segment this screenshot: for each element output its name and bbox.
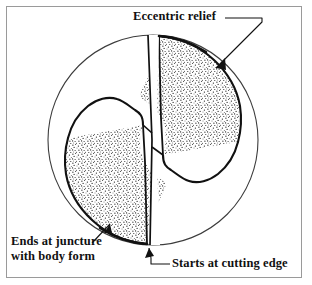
label-starts-at-cutting-edge: Starts at cutting edge	[172, 256, 288, 271]
label-ends-at-juncture-line1: Ends at juncture	[11, 234, 102, 249]
label-ends-at-juncture-line2: with body form	[11, 249, 102, 264]
leader-eccentric-relief	[216, 18, 262, 70]
label-eccentric-relief: Eccentric relief	[133, 9, 216, 24]
label-ends-at-juncture: Ends at juncture with body form	[11, 234, 102, 264]
figure-root: Eccentric relief Ends at juncture with b…	[0, 0, 312, 285]
leader-starts-at-cutting-edge	[145, 248, 170, 264]
